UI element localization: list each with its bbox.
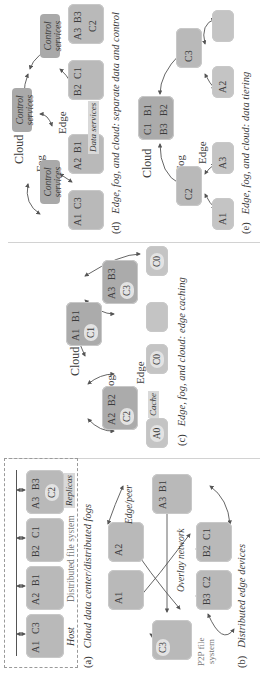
caption-e: (e)Edge, fog, and cloud: data tiering [240,72,251,234]
edge-node-3: B2 C1 [68,60,104,100]
data-label: B2 [202,545,212,557]
edge-tier-label: Edge [56,111,68,134]
fog-node-2: C3 [176,28,202,68]
cloud-tier-label: Cloud [12,135,27,164]
data-label: A1 [31,641,41,653]
data-services-label: Data services [88,101,99,154]
host-label: Host [66,627,76,646]
data-label: B1 [143,104,153,116]
host-node-2: A2 B1 [26,566,64,610]
data-label: C3 [31,622,41,634]
edge-node-1: A1 [212,198,234,230]
cloud-tier-label: Cloud [68,347,83,376]
peer-node-b2-c1: B2 C1 [196,522,232,562]
replicas-label: Replicas [64,473,75,508]
data-label: B2 [107,394,117,406]
data-label: A3 [218,157,228,169]
data-label: A2 [31,593,41,605]
p2p-label-line2: system [206,639,216,664]
data-label: A1 [71,329,81,341]
data-label: B3 [31,478,41,490]
file-system-bus [16,470,17,656]
p2p-label-line1: P2P file [196,638,206,666]
edge-node-3 [146,302,168,332]
edge-node-4: A3 B3 C2 [68,4,104,44]
edge-tier-label: Edge [196,141,208,164]
data-label: A1 [114,592,124,604]
data-label: A2 [107,413,117,425]
data-label: C3 [156,639,170,656]
data-label: B3 [159,123,169,135]
data-label: C2 [120,408,134,425]
caption-d: (d)Edge, fog, and cloud: separate data a… [110,12,121,234]
data-label: C2 [202,576,212,588]
host-node-3: B2 C1 [26,518,64,562]
cloud-node: C1 B1 B3 B2 [138,96,174,140]
data-label: A2 [114,544,124,556]
overlay-network-label: Overlay network [176,528,186,592]
peer-label: Edge/peer [124,485,134,524]
host-node-1: A1 C3 [26,614,64,658]
edge-node-4: C0 [146,246,168,276]
cloud-node: A1 B1 C1 [66,302,102,346]
data-label: B3 [107,268,117,280]
figure-canvas: A1 C3 A2 B1 B2 C1 A3 B3 C2 Host Distribu… [0,0,268,674]
data-label: C2 [184,188,194,200]
edge-node-3: A2 [212,66,234,98]
data-label: A2 [73,158,83,170]
data-label: C1 [143,123,153,135]
data-label: A1 [218,213,228,225]
peer-node-a2: A2 [108,522,144,562]
edge-tier-label: Edge [134,361,146,384]
data-label: C3 [184,50,194,62]
fog-control-services-1: Controlservices [40,160,60,204]
data-label: B3 [202,593,212,605]
caption-b: (b)Distributed edge devices [236,544,247,668]
peer-node-a3-b1: A3 B1 [152,474,192,514]
data-label: C1 [202,528,212,540]
edge-node-2: A3 [212,142,234,174]
data-label: C1 [73,67,83,79]
fog-node-1: A2 B2 C2 [102,386,138,430]
fog-control-services-2: Controlservices [40,14,60,58]
cached-data: C0 [150,253,164,270]
data-label: B1 [73,141,83,153]
data-label: A2 [218,81,228,93]
data-label: C1 [31,526,41,538]
data-label: A3 [31,497,41,509]
host-node-4: A3 B3 C2 [26,470,64,514]
data-label: B2 [73,84,83,96]
cache-label: Cache [148,391,159,418]
data-label: A3 [158,497,168,509]
edge-node-1: A1 C3 [68,190,104,230]
edge-node-4 [212,10,234,42]
cached-data: C0 [150,351,164,368]
peer-node-b3-c2: B3 C2 [196,570,232,610]
data-label: B2 [159,104,169,116]
data-label: A1 [73,214,83,226]
data-label: B1 [31,574,41,586]
data-label: C3 [120,282,134,299]
replica-data: C2 [45,484,59,501]
peer-node-a1: A1 [108,570,144,610]
data-label: C3 [73,197,83,209]
data-label: A3 [107,287,117,299]
data-label: C1 [84,324,98,341]
data-label: B3 [73,11,83,23]
edge-node-2: C0 [146,344,168,374]
peer-node-c3: C3 [152,620,192,660]
cloud-control-services: Controlservices [12,88,32,132]
caption-c: (c)Edge, fog, and cloud: edge caching [176,277,187,446]
data-label: B1 [158,480,168,492]
data-label: B1 [71,310,81,322]
data-label: A3 [73,28,83,40]
data-label: C2 [88,20,98,32]
cloud-tier-label: Cloud [140,149,155,178]
cached-data: A0 [150,425,164,442]
bus-label: Distributed file system [66,515,76,602]
data-label: B2 [31,545,41,557]
fog-node-2: A3 B3 C3 [102,260,138,304]
edge-node-1: A0 [146,418,168,448]
fog-node-1: C2 [176,166,202,206]
caption-a: (a)Cloud data center/distributed fogs [82,504,93,668]
